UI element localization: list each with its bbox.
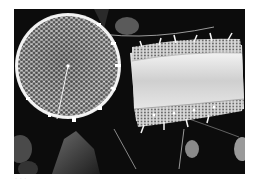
caption-fragment: · · · bbox=[15, 175, 27, 181]
diatom-valve-view bbox=[15, 13, 121, 122]
micrograph-canvas bbox=[14, 9, 245, 174]
diatom-girdle-view bbox=[130, 33, 244, 133]
micrograph bbox=[14, 9, 245, 174]
